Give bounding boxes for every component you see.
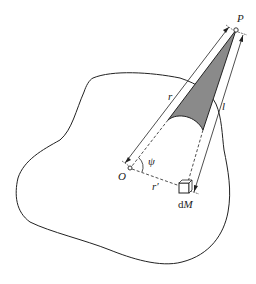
- label-psi: ψ: [148, 156, 155, 167]
- mass-element-cube-icon: [179, 180, 192, 193]
- arrowhead-r-bottom: [125, 157, 131, 163]
- label-O: O: [118, 171, 126, 182]
- diagram-svg: [0, 0, 256, 284]
- angle-arc-psi: [139, 158, 143, 172]
- label-dM: dM: [178, 199, 193, 210]
- arrowhead-l-top: [239, 35, 243, 42]
- label-l: l: [222, 101, 225, 112]
- label-r: r: [168, 91, 172, 102]
- dashed-line-cone-to-dM: [188, 130, 203, 182]
- extension-tick-l-top: [238, 32, 247, 35]
- point-O-marker: [128, 166, 132, 170]
- label-dM-M: M: [184, 198, 193, 210]
- label-P: P: [237, 13, 244, 24]
- point-P-marker: [234, 28, 238, 32]
- arrowhead-l-bottom: [194, 185, 198, 192]
- arrowhead-r-top: [223, 27, 229, 33]
- cone-shaded-region: [168, 30, 236, 130]
- diagram-canvas: P O r l ψ r′ dM: [0, 0, 256, 284]
- label-r-prime: r′: [152, 181, 159, 192]
